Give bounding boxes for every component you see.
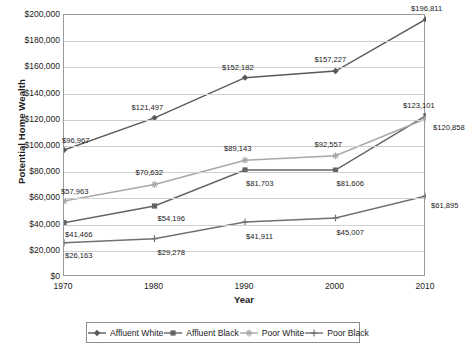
data-point-label: $152,182 <box>222 64 254 72</box>
gridline <box>64 94 424 95</box>
gridline <box>64 172 424 173</box>
y-axis-tick-label: $100,000 <box>6 141 60 150</box>
x-axis-tick-label: 2010 <box>395 281 455 291</box>
data-point-cross <box>332 215 339 222</box>
legend-marker-icon <box>239 328 259 338</box>
gridline <box>64 225 424 226</box>
data-point-diamond <box>242 74 248 80</box>
data-point-label: $96,967 <box>62 137 89 145</box>
legend-marker-icon <box>87 328 107 338</box>
data-point-label: $54,196 <box>158 215 185 223</box>
legend-label: Poor Black <box>327 328 369 338</box>
chart-legend: Affluent WhiteAffluent BlackPoor WhitePo… <box>86 322 360 343</box>
y-axis-tick-label: $140,000 <box>6 89 60 98</box>
series-line <box>64 19 426 150</box>
legend-item-affluent-black[interactable]: Affluent Black <box>163 328 238 338</box>
data-point-square <box>171 330 176 335</box>
data-point-label: $92,557 <box>315 141 342 149</box>
data-point-label: $70,632 <box>136 169 163 177</box>
data-point-diamond <box>332 68 338 74</box>
y-axis-tick-label: $200,000 <box>6 10 60 19</box>
data-point-label: $157,227 <box>315 56 347 64</box>
legend-item-poor-black[interactable]: Poor Black <box>304 328 369 338</box>
y-axis-tick-label: $80,000 <box>6 167 60 176</box>
gridline <box>64 41 424 42</box>
data-point-label: $41,911 <box>246 233 273 241</box>
y-axis-tick-label: $60,000 <box>6 193 60 202</box>
gridline <box>64 120 424 121</box>
data-point-label: $81,606 <box>337 180 364 188</box>
y-axis-tick-label: $120,000 <box>6 115 60 124</box>
gridline <box>64 251 424 252</box>
x-axis-title: Year <box>63 294 425 305</box>
data-point-label: $89,143 <box>224 145 251 153</box>
y-axis-tick-label: $160,000 <box>6 62 60 71</box>
data-point-label: $41,466 <box>65 231 92 239</box>
data-point-diamond <box>64 147 67 153</box>
data-point-label: $121,497 <box>132 104 164 112</box>
data-point-star <box>332 152 339 159</box>
data-point-label: $29,278 <box>158 249 185 257</box>
data-point-star <box>423 115 426 122</box>
legend-label: Affluent Black <box>186 328 238 338</box>
legend-marker-icon <box>163 328 183 338</box>
data-point-label: $26,163 <box>65 252 92 260</box>
y-axis-tick-label: $20,000 <box>6 246 60 255</box>
x-axis-tick-label: 1970 <box>33 281 93 291</box>
y-axis-tick-label: $0 <box>6 272 60 281</box>
data-point-label: $57,963 <box>61 188 88 196</box>
gridline <box>64 198 424 199</box>
data-point-label: $61,895 <box>431 202 458 210</box>
y-axis-tick-label: $180,000 <box>6 36 60 45</box>
data-point-label: $81,703 <box>246 180 273 188</box>
x-axis-tick-label: 1990 <box>214 281 274 291</box>
legend-item-affluent-white[interactable]: Affluent White <box>87 328 163 338</box>
data-point-cross <box>64 239 67 246</box>
y-axis-tick-label: $40,000 <box>6 220 60 229</box>
data-point-star <box>242 157 249 164</box>
legend-item-poor-white[interactable]: Poor White <box>239 328 305 338</box>
data-point-diamond <box>94 329 100 335</box>
data-point-label: $123,101 <box>403 102 435 110</box>
x-axis-tick-label: 1980 <box>124 281 184 291</box>
data-point-square <box>152 203 157 208</box>
legend-marker-icon <box>304 328 324 338</box>
legend-label: Affluent White <box>110 328 163 338</box>
data-point-cross <box>151 235 158 242</box>
y-axis-ticks: $0$20,000$40,000$60,000$80,000$100,000$1… <box>4 0 60 355</box>
data-point-cross <box>311 329 318 336</box>
legend-label: Poor White <box>262 328 305 338</box>
x-axis-tick-label: 2000 <box>305 281 365 291</box>
data-point-label: $196,811 <box>411 5 442 13</box>
data-point-star <box>151 181 158 188</box>
data-point-star <box>245 329 252 336</box>
data-point-label: $120,858 <box>433 124 465 132</box>
data-point-label: $45,007 <box>337 229 364 237</box>
